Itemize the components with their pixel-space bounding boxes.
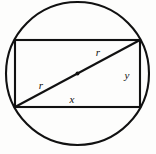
label-radius-lower: r [39,79,44,91]
figure-container: r r x y [0,0,156,154]
circle-center-point [76,72,80,76]
label-radius-upper: r [96,46,101,58]
label-width-x: x [69,93,75,105]
label-height-y: y [124,69,130,81]
geometry-diagram: r r x y [0,0,156,154]
